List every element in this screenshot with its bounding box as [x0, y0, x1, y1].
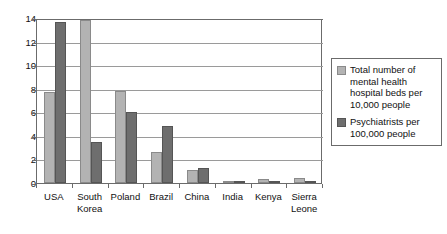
bar-group: [216, 18, 252, 183]
x-tick-mark: [108, 184, 109, 188]
x-tick-label-line1: Kenya: [255, 191, 282, 202]
y-tick-mark: [32, 184, 36, 185]
legend-label-beds-line1: Total number of: [350, 64, 415, 75]
x-tick-mark: [286, 184, 287, 188]
y-tick-mark: [32, 160, 36, 161]
x-tick-mark: [36, 184, 37, 188]
bar: [305, 181, 316, 183]
legend-item-beds: Total number of mental health hospital b…: [337, 64, 437, 110]
bar: [223, 181, 234, 183]
y-tick-mark: [32, 66, 36, 67]
legend-label-beds-line4: 10,000 people: [350, 99, 410, 110]
bar-group: [180, 18, 216, 183]
x-tick-mark: [179, 184, 180, 188]
bar: [258, 179, 269, 183]
y-tick-mark: [32, 43, 36, 44]
legend-label-psych-line2: 100,000 people: [350, 128, 416, 139]
bar: [44, 92, 55, 183]
x-tick-mark: [251, 184, 252, 188]
bar: [80, 20, 91, 183]
y-tick-mark: [32, 90, 36, 91]
chart-legend: Total number of mental health hospital b…: [331, 58, 442, 146]
bar: [151, 152, 162, 183]
bar-group: [287, 18, 323, 183]
legend-label-beds-line3: hospital beds per: [350, 87, 422, 98]
x-tick-mark: [322, 184, 323, 188]
bar: [115, 91, 126, 183]
bar-group: [144, 18, 180, 183]
plot-area: [36, 19, 322, 184]
legend-item-psychiatrists: Psychiatrists per 100,000 people: [337, 116, 437, 139]
bar: [91, 142, 102, 183]
x-tick-label-line1: India: [222, 191, 243, 202]
y-tick-mark: [32, 113, 36, 114]
bar: [55, 22, 66, 183]
y-tick-mark: [32, 19, 36, 20]
bar: [126, 112, 137, 183]
legend-label-beds: Total number of mental health hospital b…: [350, 64, 422, 110]
bar: [187, 170, 198, 183]
legend-label-beds-line2: mental health: [350, 76, 407, 87]
bar: [294, 178, 305, 183]
bar: [198, 168, 209, 183]
legend-label-psychiatrists: Psychiatrists per 100,000 people: [350, 116, 420, 139]
x-tick-label-line1: Poland: [111, 191, 141, 202]
x-tick-label-line1: China: [184, 191, 209, 202]
bar-group: [252, 18, 288, 183]
x-axis: USASouthKoreaPolandBrazilChinaIndiaKenya…: [36, 184, 322, 234]
x-tick-label-line1: USA: [44, 191, 64, 202]
x-tick-label-line1: Brazil: [149, 191, 173, 202]
legend-label-psych-line1: Psychiatrists per: [350, 116, 420, 127]
bar-group: [109, 18, 145, 183]
bar: [234, 181, 245, 183]
x-tick-label-line1: South: [77, 191, 102, 202]
x-tick-mark: [215, 184, 216, 188]
bar-chart: 02468101214 USASouthKoreaPolandBrazilChi…: [0, 0, 447, 234]
bar: [162, 126, 173, 183]
x-tick-label-line1: Sierra: [291, 191, 316, 202]
legend-swatch-icon-beds: [337, 66, 346, 75]
y-tick-mark: [32, 137, 36, 138]
x-tick-label-line2: Korea: [77, 203, 102, 214]
bar-group: [73, 18, 109, 183]
x-tick-mark: [143, 184, 144, 188]
x-tick-mark: [72, 184, 73, 188]
bar-group: [37, 18, 73, 183]
bar: [269, 181, 280, 183]
legend-swatch-icon-psychiatrists: [337, 118, 346, 127]
x-tick-label-line2: Leone: [291, 203, 317, 214]
x-tick-label: SierraLeone: [282, 191, 326, 214]
